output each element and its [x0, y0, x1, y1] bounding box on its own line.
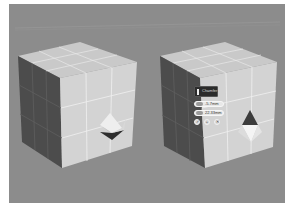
- left-cube[interactable]: [18, 42, 137, 168]
- caddy-title-bar[interactable]: Chamfer: [194, 86, 218, 97]
- grid-line: [15, 22, 280, 28]
- cancel-button[interactable]: ✕: [214, 119, 220, 125]
- segments-value: 22.33mm: [205, 111, 222, 115]
- caddy-title: Chamfer: [202, 88, 217, 93]
- chamfer-segments-field[interactable]: 22.33mm: [194, 110, 224, 116]
- grid-line: [15, 25, 280, 30]
- amount-value: -5.7mm: [205, 102, 219, 106]
- cube-front-face: [60, 62, 137, 168]
- apply-and-continue-button[interactable]: +: [204, 119, 210, 125]
- viewport-scene: [9, 4, 285, 203]
- ok-button[interactable]: ✓: [194, 119, 200, 125]
- caddy-button-row: ✓ + ✕: [194, 119, 224, 125]
- chamfer-caddy: Chamfer -5.7mm 22.33mm ✓ + ✕: [194, 86, 228, 126]
- chamfer-icon: [197, 89, 199, 95]
- 3d-viewport[interactable]: Chamfer -5.7mm 22.33mm ✓ + ✕: [9, 4, 285, 203]
- segments-icon: [196, 111, 203, 115]
- chamfer-amount-field[interactable]: -5.7mm: [194, 101, 224, 107]
- amount-icon: [196, 102, 203, 106]
